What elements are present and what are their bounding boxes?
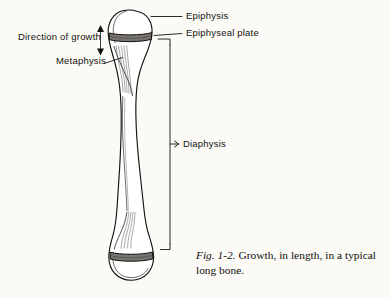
diaphysis-bracket (158, 39, 179, 250)
label-epiphysis: Epiphysis (186, 11, 228, 21)
label-epiphyseal-plate: Epiphyseal plate (186, 28, 259, 38)
leader-epiphyseal-plate (154, 34, 182, 36)
figure-caption: Fig. 1-2. Growth, in length, in a typica… (196, 248, 376, 277)
label-metaphysis: Metaphysis (56, 56, 106, 66)
label-diaphysis: Diaphysis (183, 139, 226, 149)
figure-container: Epiphysis Epiphyseal plate Metaphysis Di… (0, 0, 389, 298)
caption-figure-number: Fig. 1-2. (196, 249, 236, 261)
bone-drawing (108, 10, 154, 280)
label-direction-of-growth: Direction of growth (18, 32, 101, 42)
